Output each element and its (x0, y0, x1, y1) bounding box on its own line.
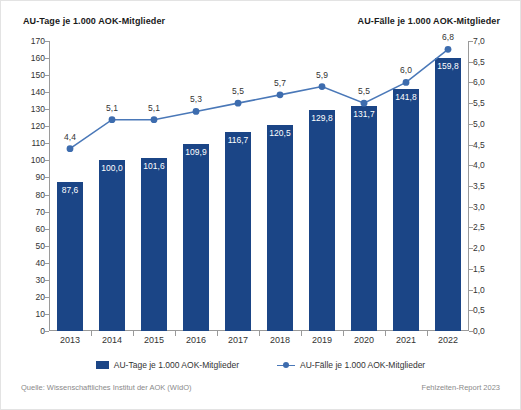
x-axis-label: 2020 (354, 335, 374, 345)
right-axis-tick-label: 4,5 (473, 140, 503, 150)
right-axis-tick-label: 3,5 (473, 181, 503, 191)
line-value-label: 6,0 (400, 65, 412, 75)
line-marker (193, 108, 200, 115)
line-value-label: 5,5 (358, 86, 370, 96)
source-note: Quelle: Wissenschaftliches Institut der … (21, 383, 191, 392)
line-marker (109, 116, 116, 123)
right-axis-tick-label: 3,0 (473, 202, 503, 212)
x-axis-tick-mark (133, 331, 134, 336)
right-axis-tick-mark (469, 103, 473, 104)
x-axis-label: 2015 (144, 335, 164, 345)
x-axis-label: 2022 (438, 335, 458, 345)
right-axis-tick-mark (469, 290, 473, 291)
left-axis-tick-label: 170 (15, 36, 45, 46)
x-axis-label: 2018 (270, 335, 290, 345)
line-value-label: 5,1 (106, 103, 118, 113)
line-marker (361, 100, 368, 107)
left-axis-tick-label: 50 (15, 241, 45, 251)
right-axis-tick-mark (469, 165, 473, 166)
left-axis-tick-label: 70 (15, 207, 45, 217)
left-axis-tick-label: 80 (15, 190, 45, 200)
right-axis-title: AU-Fälle je 1.000 AOK-Mitglieder (358, 16, 500, 26)
right-axis-tick-label: 2,0 (473, 243, 503, 253)
line-marker (277, 91, 284, 98)
right-axis-tick-mark (469, 227, 473, 228)
right-axis-tick-mark (469, 207, 473, 208)
line-marker (67, 145, 74, 152)
line-value-label: 6,8 (442, 32, 454, 42)
x-axis-tick-mark (301, 331, 302, 336)
left-axis-tick-label: 140 (15, 87, 45, 97)
right-axis-tick-mark (469, 41, 473, 42)
right-axis-tick-label: 6,5 (473, 57, 503, 67)
line-value-label: 5,1 (148, 103, 160, 113)
right-axis-tick-mark (469, 62, 473, 63)
left-axis-tick-label: 0 (15, 326, 45, 336)
left-axis-tick-label: 120 (15, 121, 45, 131)
left-axis-tick-label: 60 (15, 224, 45, 234)
left-axis-tick-label: 150 (15, 70, 45, 80)
right-axis-tick-mark (469, 248, 473, 249)
report-note: Fehlzeiten-Report 2023 (422, 383, 500, 392)
legend-label-au-tage: AU-Tage je 1.000 AOK-Mitglieder (114, 360, 239, 370)
left-axis-tick-label: 110 (15, 138, 45, 148)
x-axis-tick-mark (91, 331, 92, 336)
line-marker (403, 79, 410, 86)
x-axis-tick-mark (427, 331, 428, 336)
x-axis-tick-mark (217, 331, 218, 336)
line-marker (445, 46, 452, 53)
right-axis-tick-mark (469, 186, 473, 187)
x-axis-label: 2021 (396, 335, 416, 345)
right-axis-tick-label: 1,5 (473, 264, 503, 274)
left-axis-title: AU-Tage je 1.000 AOK-Mitglieder (23, 16, 165, 26)
left-axis-tick-label: 10 (15, 309, 45, 319)
left-axis-tick-label: 20 (15, 292, 45, 302)
right-axis-tick-mark (469, 331, 473, 332)
x-axis-tick-mark (259, 331, 260, 336)
bar-swatch-icon (96, 361, 109, 369)
line-value-label: 5,9 (316, 70, 328, 80)
right-axis-tick-label: 0,5 (473, 305, 503, 315)
line-value-label: 5,7 (274, 78, 286, 88)
left-axis-tick-label: 160 (15, 53, 45, 63)
left-axis-tick-mark (45, 331, 49, 332)
line-series (49, 41, 469, 331)
right-axis-tick-label: 0,0 (473, 326, 503, 336)
x-axis-label: 2017 (228, 335, 248, 345)
right-axis-tick-mark (469, 124, 473, 125)
chart-footer: Quelle: Wissenschaftliches Institut der … (21, 383, 500, 392)
x-axis-label: 2016 (186, 335, 206, 345)
line-path (70, 49, 448, 148)
line-marker (319, 83, 326, 90)
x-axis-tick-mark (175, 331, 176, 336)
plot-area: 0102030405060708090100110120130140150160… (49, 41, 469, 331)
x-axis-label: 2014 (102, 335, 122, 345)
left-axis-tick-label: 130 (15, 104, 45, 114)
line-swatch-icon (277, 361, 295, 369)
left-axis-tick-label: 30 (15, 275, 45, 285)
legend-item-au-tage: AU-Tage je 1.000 AOK-Mitglieder (96, 360, 239, 370)
x-axis-tick-mark (343, 331, 344, 336)
right-axis-tick-label: 7,0 (473, 36, 503, 46)
line-marker (151, 116, 158, 123)
line-value-label: 4,4 (64, 132, 76, 142)
right-axis-tick-label: 5,5 (473, 98, 503, 108)
x-axis-label: 2019 (312, 335, 332, 345)
chart-figure: AU-Tage je 1.000 AOK-Mitglieder AU-Fälle… (0, 0, 521, 410)
legend-item-au-faelle: AU-Fälle je 1.000 AOK-Mitglieder (277, 360, 425, 370)
right-axis-tick-mark (469, 82, 473, 83)
left-axis-tick-label: 40 (15, 258, 45, 268)
right-axis-tick-label: 5,0 (473, 119, 503, 129)
x-axis-tick-mark (385, 331, 386, 336)
line-value-label: 5,5 (232, 86, 244, 96)
chart-legend: AU-Tage je 1.000 AOK-Mitglieder AU-Fälle… (1, 360, 520, 370)
right-axis-tick-label: 4,0 (473, 160, 503, 170)
right-axis-tick-label: 2,5 (473, 222, 503, 232)
right-axis-tick-mark (469, 310, 473, 311)
line-value-label: 5,3 (190, 94, 202, 104)
right-axis-tick-mark (469, 145, 473, 146)
x-axis-label: 2013 (60, 335, 80, 345)
legend-label-au-faelle: AU-Fälle je 1.000 AOK-Mitglieder (300, 360, 425, 370)
left-axis-tick-label: 100 (15, 155, 45, 165)
right-axis-tick-mark (469, 269, 473, 270)
